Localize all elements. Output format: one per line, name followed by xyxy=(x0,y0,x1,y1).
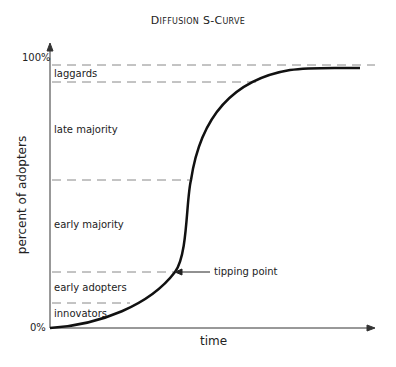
y-axis-arrow-icon xyxy=(47,43,53,51)
tipping-point-label: tipping point xyxy=(214,266,278,277)
x-axis-label: time xyxy=(200,334,227,348)
segment-innovators: innovators xyxy=(54,308,107,319)
segment-laggards: laggards xyxy=(54,68,97,79)
y-max-label: 100% xyxy=(22,52,51,63)
x-axis-arrow-icon xyxy=(367,325,375,331)
tipping-point-arrow-icon xyxy=(175,269,210,275)
segment-early-adopters: early adopters xyxy=(54,282,127,293)
y-min-label: 0% xyxy=(30,322,46,333)
segment-late-majority: late majority xyxy=(54,124,118,135)
segment-early-majority: early majority xyxy=(54,219,124,230)
y-axis-label: percent of adopters xyxy=(15,135,29,255)
